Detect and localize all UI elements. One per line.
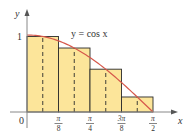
x-tick-numerator: π — [151, 114, 155, 123]
x-tick-denominator: 4 — [88, 124, 92, 133]
x-tick-numerator: π — [57, 114, 61, 123]
x-tick-numerator: 3π — [117, 114, 126, 123]
y-axis-label: y — [14, 8, 20, 19]
x-tick-numerator: π — [88, 114, 92, 123]
riemann-rectangles — [27, 36, 153, 112]
x-axis-arrow-icon — [171, 110, 178, 115]
x-tick-denominator: 8 — [57, 124, 61, 133]
x-axis-label: x — [177, 115, 183, 126]
function-label: y = cos x — [71, 28, 107, 39]
x-tick-denominator: 2 — [151, 124, 155, 133]
riemann-sum-chart: y x 1 y = cos x 0π8π43π8π2 — [0, 0, 191, 139]
x-tick-denominator: 8 — [120, 124, 124, 133]
x-tick-origin: 0 — [19, 115, 24, 126]
x-tick-labels: 0π8π43π8π2 — [19, 114, 157, 133]
y-tick-1: 1 — [17, 31, 22, 42]
y-axis-arrow-icon — [25, 9, 30, 16]
